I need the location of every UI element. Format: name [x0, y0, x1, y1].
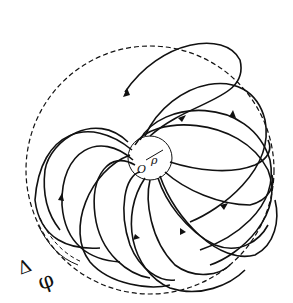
- origin-label: O: [137, 163, 146, 176]
- trajectory: [170, 140, 270, 171]
- trajectory: [165, 172, 273, 205]
- trajectory: [160, 176, 277, 256]
- direction-arrow-icon: [58, 193, 64, 201]
- trajectory: [125, 43, 241, 136]
- direction-arrow-icon: [180, 228, 186, 235]
- radius-label: ρ: [151, 154, 157, 167]
- trajectory-diagram: [0, 0, 293, 303]
- trajectory: [62, 146, 133, 262]
- direction-arrow-icon: [123, 88, 130, 97]
- direction-arrow-icon: [229, 110, 236, 118]
- trajectory: [140, 110, 271, 250]
- direction-arrow-icon: [133, 234, 140, 240]
